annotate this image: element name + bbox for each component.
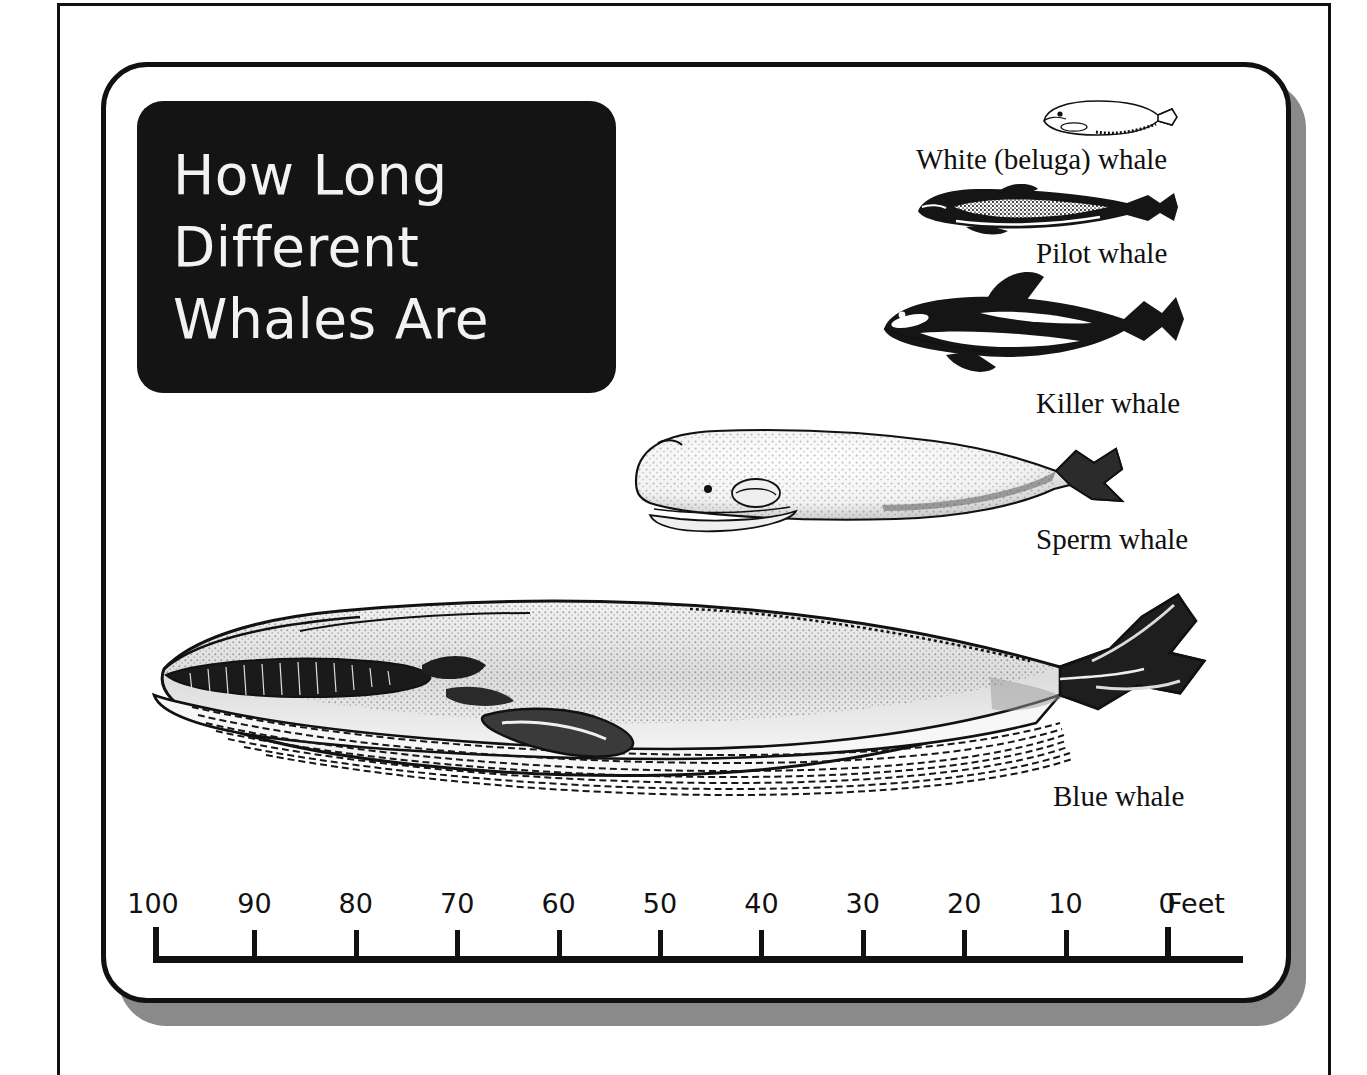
pilot-whale-icon [912, 177, 1197, 245]
ruler-tick-40 [759, 930, 764, 957]
ruler-label-100: 100 [127, 888, 179, 919]
ruler-unit-label: Feet [1167, 888, 1225, 919]
beluga-whale-label: White (beluga) whale [916, 143, 1167, 176]
ruler-bar [153, 956, 1243, 963]
ruler-tick-90 [252, 930, 257, 957]
ruler-label-30: 30 [846, 888, 880, 919]
killer-whale-illustration [876, 267, 1196, 382]
title-line-2: Different [173, 211, 616, 283]
scale-ruler: 1009080706050403020100 Feet [153, 893, 1243, 963]
blue-whale-label: Blue whale [1053, 780, 1184, 813]
title-line-1: How Long [173, 139, 616, 211]
ruler-tick-70 [455, 930, 460, 957]
killer-whale-label: Killer whale [1036, 387, 1180, 420]
pilot-whale-illustration [912, 177, 1197, 245]
ruler-tick-30 [861, 930, 866, 957]
ruler-tick-50 [658, 930, 663, 957]
ruler-label-90: 90 [237, 888, 271, 919]
ruler-label-50: 50 [643, 888, 677, 919]
ruler-tick-10 [1064, 930, 1069, 957]
ruler-endcap-left [153, 927, 159, 963]
ruler-label-40: 40 [744, 888, 778, 919]
ruler-tick-80 [354, 930, 359, 957]
beluga-whale-illustration [1036, 95, 1196, 143]
ruler-label-10: 10 [1048, 888, 1082, 919]
ruler-tick-20 [962, 930, 967, 957]
ruler-label-80: 80 [339, 888, 373, 919]
ruler-label-60: 60 [541, 888, 575, 919]
ruler-label-70: 70 [440, 888, 474, 919]
ruler-tick-60 [557, 930, 562, 957]
beluga-whale-icon [1036, 95, 1196, 143]
pilot-whale-label: Pilot whale [1036, 237, 1167, 270]
poster-card: How Long Different Whales Are White (bel… [101, 62, 1291, 1003]
ruler-endcap-right [1165, 927, 1171, 963]
title-plate: How Long Different Whales Are [137, 101, 616, 393]
ruler-label-20: 20 [947, 888, 981, 919]
title-line-3: Whales Are [173, 283, 616, 355]
killer-whale-icon [876, 267, 1196, 382]
sperm-whale-label: Sperm whale [1036, 523, 1188, 556]
